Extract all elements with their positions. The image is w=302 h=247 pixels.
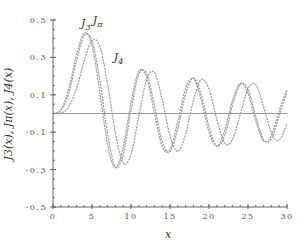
y-tick-label: 0.1	[30, 91, 47, 100]
bessel-chart: -0.5-0.3-0.10.10.30.5051015202530 J3JπJ4…	[0, 0, 302, 247]
annotations: J3JπJ4	[79, 14, 123, 66]
y-tick-label: -0.3	[26, 166, 47, 175]
curve-label-J3: J3	[79, 17, 91, 32]
curve-label-Jπ: Jπ	[91, 14, 103, 29]
x-tick-label: 15	[163, 212, 176, 221]
series-J3	[53, 33, 287, 168]
x-tick-label: 10	[124, 212, 137, 221]
curve-label-J4: J4	[112, 51, 124, 66]
x-axis-label: x	[165, 228, 172, 241]
x-tick-label: 5	[89, 212, 96, 221]
x-tick-label: 30	[280, 212, 293, 221]
y-axis-label: J3(x), Jπ(x), J4(x)	[2, 68, 15, 163]
y-tick-label: -0.1	[26, 128, 47, 137]
x-tick-label: 25	[241, 212, 254, 221]
y-tick-label: 0.3	[30, 53, 47, 62]
x-tick-label: 20	[202, 212, 215, 221]
axes: -0.5-0.3-0.10.10.30.5051015202530	[26, 16, 294, 221]
x-tick-label: 0	[50, 212, 57, 221]
plot-curves	[53, 33, 287, 168]
y-tick-label: -0.5	[26, 203, 47, 212]
series-Jpi	[53, 34, 287, 168]
y-tick-label: 0.5	[30, 16, 47, 25]
